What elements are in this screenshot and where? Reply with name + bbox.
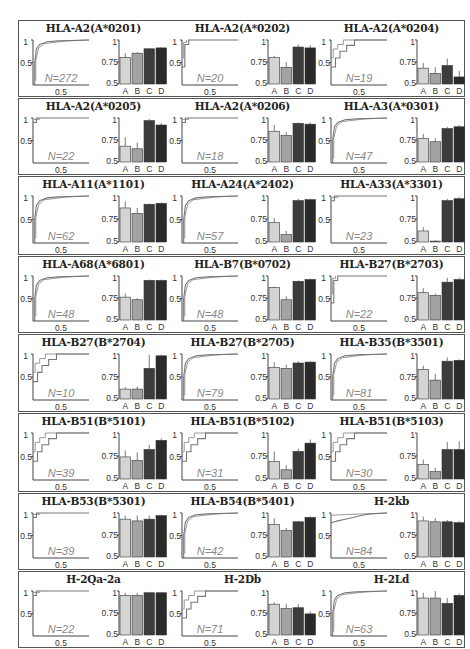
y-tick: 1	[410, 115, 415, 125]
category-label: B	[432, 322, 438, 332]
y-tick: 0.5	[169, 294, 181, 304]
bar-c	[144, 593, 155, 635]
step-plot: 10.50.5N=81	[318, 351, 387, 412]
panel-row: HLA-A2(A*0201)10.50.5N=27210.750.5ABCDHL…	[18, 20, 465, 97]
bar-c	[293, 608, 304, 635]
x-tick: 0.5	[204, 87, 216, 97]
y-tick: 1	[172, 193, 177, 203]
y-tick: 1	[172, 37, 177, 47]
step-plot: 10.50.5N=84	[318, 510, 387, 570]
bar-d	[156, 125, 167, 162]
category-label: D	[158, 86, 164, 96]
category-label: A	[271, 481, 277, 491]
y-tick: 0.5	[404, 473, 416, 483]
y-tick: 0.5	[20, 215, 32, 225]
y-tick: 0.75	[101, 57, 118, 67]
sample-count: N=47	[346, 150, 373, 162]
bar-b	[430, 472, 441, 479]
y-tick: 0.5	[169, 58, 181, 68]
category-label: D	[456, 637, 462, 647]
allele-panel: H-2kb10.50.5N=8410.750.5ABCD	[317, 494, 466, 569]
panel-plots: 10.50.5N=4810.750.5ABCD	[168, 257, 317, 334]
y-tick: 1	[23, 588, 28, 598]
bar-chart: 10.750.5ABCD	[399, 588, 464, 647]
bar-b	[430, 142, 441, 162]
y-tick: 0.75	[101, 293, 118, 303]
category-label: D	[456, 401, 462, 411]
category-label: D	[307, 322, 313, 332]
bar-c	[442, 522, 453, 557]
y-tick: 1	[112, 588, 117, 598]
step-plot: 10.50.5N=42	[169, 510, 238, 570]
category-label: A	[420, 322, 426, 332]
bar-d	[305, 48, 316, 84]
bar-b	[281, 67, 292, 84]
bar-c	[144, 368, 155, 399]
bar-a	[269, 287, 280, 320]
panel-plots: 10.50.5N=2010.750.5ABCD	[168, 21, 317, 98]
bar-c	[442, 129, 453, 162]
category-label: C	[444, 559, 450, 569]
x-tick: 0.5	[204, 245, 216, 255]
panel-plots: 10.50.5N=8410.750.5ABCD	[317, 494, 466, 571]
step-plot: 10.50.5N=22	[20, 115, 89, 175]
bar-c	[144, 49, 155, 84]
y-tick: 0.75	[250, 214, 267, 224]
allele-panel: HLA-B51(B*5101)10.50.5N=3910.750.5ABCD	[19, 414, 168, 491]
bar-chart: 10.750.5ABCD	[101, 273, 166, 332]
bar-c	[442, 282, 453, 320]
bar-b	[430, 380, 441, 399]
category-label: D	[456, 559, 462, 569]
y-tick: 0.75	[250, 135, 267, 145]
allele-panel: H-2Ld10.50.5N=6310.750.5ABCD	[317, 572, 466, 647]
x-tick: 0.5	[55, 638, 67, 648]
y-tick: 0.75	[399, 451, 416, 461]
panel-plots: 10.50.5N=6210.750.5ABCD	[19, 177, 168, 256]
category-label: A	[271, 86, 277, 96]
y-tick: 1	[172, 510, 177, 520]
y-tick: 1	[172, 430, 177, 440]
y-tick: 0.5	[318, 531, 330, 541]
bar-c	[293, 451, 304, 479]
panel-plots: 10.50.5N=4210.750.5ABCD	[168, 494, 317, 571]
category-label: C	[444, 244, 450, 254]
x-tick: 0.5	[204, 323, 216, 333]
allele-panel: HLA-B51(B*5103)10.50.5N=3010.750.5ABCD	[317, 414, 466, 491]
category-label: A	[122, 322, 128, 332]
category-label: A	[271, 401, 277, 411]
y-tick: 0.75	[399, 57, 416, 67]
bar-d	[454, 450, 465, 479]
panel-row: HLA-A68(A*6801)10.50.5N=4810.750.5ABCDHL…	[18, 256, 465, 333]
panel-plots: 10.50.5N=3010.750.5ABCD	[317, 414, 466, 493]
y-tick: 0.5	[106, 393, 118, 403]
step-curve	[331, 196, 387, 201]
y-tick: 1	[23, 430, 28, 440]
category-label: B	[432, 86, 438, 96]
category-label: D	[307, 401, 313, 411]
bar-b	[430, 295, 441, 320]
category-label: A	[420, 481, 426, 491]
category-label: B	[134, 401, 140, 411]
category-label: D	[307, 559, 313, 569]
panel-row: HLA-B51(B*5101)10.50.5N=3910.750.5ABCDHL…	[18, 413, 465, 492]
y-tick: 0.5	[20, 294, 32, 304]
y-tick: 0.75	[250, 451, 267, 461]
category-label: D	[456, 322, 462, 332]
y-tick: 0.5	[255, 473, 267, 483]
y-tick: 0.75	[399, 372, 416, 382]
category-label: A	[122, 164, 128, 174]
category-label: D	[307, 481, 313, 491]
panel-row: H-2Qa-2a10.50.5N=2210.750.5ABCDH-2Db10.5…	[18, 571, 465, 648]
bar-b	[281, 531, 292, 557]
y-tick: 0.5	[106, 551, 118, 561]
step-plot: 10.50.5N=62	[20, 193, 89, 255]
category-label: A	[420, 401, 426, 411]
bar-chart: 10.750.5ABCD	[250, 510, 315, 569]
bar-b	[281, 300, 292, 320]
category-label: C	[295, 481, 301, 491]
category-label: B	[134, 559, 140, 569]
y-tick: 0.75	[250, 530, 267, 540]
category-label: C	[146, 401, 152, 411]
sample-count: N=71	[197, 623, 224, 635]
step-plot: 10.50.5N=47	[318, 115, 387, 175]
